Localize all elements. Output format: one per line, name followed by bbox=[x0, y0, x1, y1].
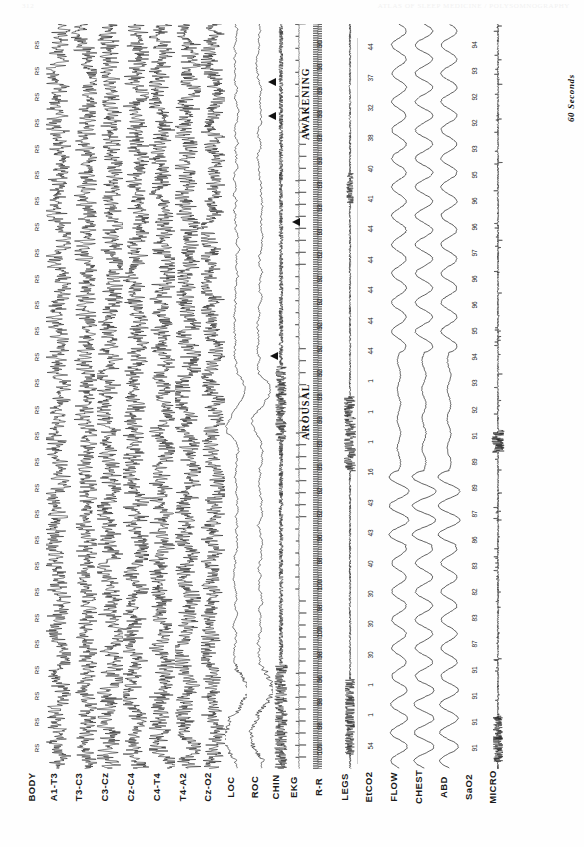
channel-label-chest: CHEST bbox=[413, 770, 424, 804]
value-rr-30: 100 bbox=[316, 744, 323, 755]
value-body-19: RS bbox=[34, 536, 40, 544]
trace-loc bbox=[225, 24, 247, 769]
polysomnogram-channels: RSRSRSRSRSRSRSRSRSRSRSRSRSRSRSRSRSRSRSRS… bbox=[0, 14, 584, 847]
value-rr-25: 100 bbox=[316, 626, 323, 637]
value-etco2-15: 43 bbox=[366, 499, 373, 506]
value-body-11: RS bbox=[34, 327, 40, 335]
channel-label-a1t3: A1-T3 bbox=[48, 773, 59, 801]
value-sao2-2: 92 bbox=[471, 93, 478, 100]
value-etco2-3: 38 bbox=[366, 135, 373, 142]
rr-column-rule bbox=[357, 38, 358, 764]
value-rr-18: 95 bbox=[316, 463, 323, 470]
value-sao2-9: 96 bbox=[471, 276, 478, 283]
value-sao2-23: 87 bbox=[471, 640, 478, 647]
trace-roc bbox=[247, 24, 273, 769]
value-body-23: RS bbox=[34, 640, 40, 648]
value-sao2-21: 82 bbox=[471, 588, 478, 595]
value-body-20: RS bbox=[34, 562, 40, 570]
value-etco2-16: 43 bbox=[366, 530, 373, 537]
channel-label-etco2: EtCO2 bbox=[363, 771, 374, 802]
value-etco2-22: 1 bbox=[366, 714, 373, 718]
channel-label-micro: MICRO bbox=[487, 770, 498, 804]
trace-abd bbox=[437, 24, 461, 769]
value-etco2-4: 40 bbox=[366, 165, 373, 172]
values-etco2: 4437323840414444444444111164343403030301… bbox=[361, 24, 387, 769]
value-rr-11: 92 bbox=[316, 299, 323, 306]
value-sao2-22: 83 bbox=[471, 614, 478, 621]
value-rr-3: 93 bbox=[316, 111, 323, 118]
value-rr-1: 93 bbox=[316, 64, 323, 71]
value-rr-13: 92 bbox=[316, 346, 323, 353]
channel-label-ekg: EKG bbox=[288, 776, 299, 798]
value-body-17: RS bbox=[34, 483, 40, 491]
value-body-15: RS bbox=[34, 431, 40, 439]
value-etco2-23: 54 bbox=[366, 742, 373, 749]
value-body-4: RS bbox=[34, 145, 40, 153]
value-sao2-16: 89 bbox=[471, 458, 478, 465]
trace-a1t3 bbox=[46, 24, 71, 769]
value-etco2-13: 1 bbox=[366, 440, 373, 444]
value-etco2-2: 32 bbox=[366, 104, 373, 111]
page-number-ghost: 312 bbox=[22, 2, 34, 10]
trace-c4t4 bbox=[149, 24, 175, 769]
value-etco2-21: 1 bbox=[366, 683, 373, 687]
value-rr-28: 98 bbox=[316, 699, 323, 706]
value-rr-26: 98 bbox=[316, 652, 323, 659]
value-rr-8: 93 bbox=[316, 228, 323, 235]
value-sao2-25: 91 bbox=[471, 692, 478, 699]
trace-c3cz bbox=[97, 24, 123, 769]
value-body-18: RS bbox=[34, 509, 40, 517]
value-body-14: RS bbox=[34, 405, 40, 413]
trace-flow bbox=[387, 24, 411, 769]
value-sao2-13: 93 bbox=[471, 380, 478, 387]
channel-sao2: 9493929293959696979696959493929189898786… bbox=[461, 14, 487, 789]
channel-body: RSRSRSRSRSRSRSRSRSRSRSRSRSRSRSRSRSRSRSRS… bbox=[28, 14, 46, 789]
value-body-1: RS bbox=[34, 67, 40, 75]
value-rr-4: 93 bbox=[316, 134, 323, 141]
value-body-21: RS bbox=[34, 588, 40, 596]
channel-label-roc: ROC bbox=[249, 776, 260, 798]
value-rr-2: 93 bbox=[316, 87, 323, 94]
channel-chin: CHIN bbox=[273, 14, 289, 789]
channel-czo2: Cz-O2 bbox=[201, 14, 225, 789]
channel-loc: LOC bbox=[225, 14, 247, 789]
annotation-arousal: AROUSAL bbox=[300, 383, 311, 440]
value-sao2-5: 95 bbox=[471, 172, 478, 179]
value-rr-16: 93 bbox=[316, 416, 323, 423]
value-etco2-14: 16 bbox=[366, 469, 373, 476]
value-sao2-27: 91 bbox=[471, 744, 478, 751]
values-body: RSRSRSRSRSRSRSRSRSRSRSRSRSRSRSRSRSRSRSRS… bbox=[28, 24, 46, 769]
value-sao2-18: 87 bbox=[471, 510, 478, 517]
values-rr: 9093939393939393939292929292929393959592… bbox=[309, 24, 339, 769]
trace-czc4 bbox=[123, 24, 149, 769]
value-rr-15: 93 bbox=[316, 393, 323, 400]
value-sao2-6: 96 bbox=[471, 198, 478, 205]
channel-t4a2: T4-A2 bbox=[175, 14, 201, 789]
channel-a1t3: A1-T3 bbox=[46, 14, 71, 789]
value-rr-27: 96 bbox=[316, 675, 323, 682]
desaturation-marker-arrow bbox=[292, 218, 300, 226]
value-rr-20: 92 bbox=[316, 510, 323, 517]
value-etco2-17: 40 bbox=[366, 560, 373, 567]
awakening-marker-arrow-1 bbox=[268, 78, 276, 86]
awakening-marker-arrow-2 bbox=[268, 112, 276, 120]
value-sao2-4: 93 bbox=[471, 146, 478, 153]
value-etco2-1: 37 bbox=[366, 74, 373, 81]
channel-roc: ROC bbox=[247, 14, 273, 789]
value-sao2-26: 91 bbox=[471, 718, 478, 725]
channel-label-t3c3: T3-C3 bbox=[73, 773, 84, 801]
value-etco2-19: 30 bbox=[366, 621, 373, 628]
value-body-13: RS bbox=[34, 379, 40, 387]
value-etco2-6: 44 bbox=[366, 226, 373, 233]
value-rr-5: 93 bbox=[316, 158, 323, 165]
value-etco2-9: 44 bbox=[366, 317, 373, 324]
value-sao2-20: 83 bbox=[471, 562, 478, 569]
value-rr-24: 98 bbox=[316, 605, 323, 612]
channel-label-flow: FLOW bbox=[388, 772, 399, 802]
value-sao2-3: 92 bbox=[471, 120, 478, 127]
channel-flow: FLOW bbox=[387, 14, 411, 789]
value-body-5: RS bbox=[34, 171, 40, 179]
value-body-7: RS bbox=[34, 223, 40, 231]
channel-label-body: BODY bbox=[26, 772, 37, 801]
channel-label-t4a2: T4-A2 bbox=[177, 773, 188, 801]
